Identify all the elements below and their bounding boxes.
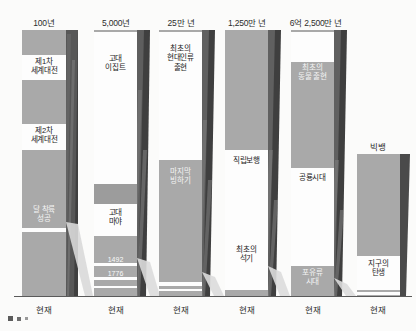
timeline-chart-canvas: [0, 0, 416, 331]
event-band-2-5: [94, 286, 137, 288]
event-label-5-3: 포유류 시대: [291, 268, 334, 287]
event-label-1-2: 제2차 세계대전: [22, 126, 66, 145]
event-label-1-3: 달 착륙 성공: [22, 205, 66, 224]
tick-top-4: 1,250만 년: [217, 16, 277, 28]
event-label-3-1: 최초의 현대인류 출현: [159, 44, 202, 72]
event-label-2-1: 고대 이집트: [94, 54, 137, 73]
footer-square-medium-icon: [17, 317, 21, 321]
event-band-5-0: [291, 32, 334, 62]
tick-top-6: 빅뱅: [352, 140, 404, 152]
event-label-2-4: 1776: [94, 269, 137, 278]
tick-bottom-2: 현재: [90, 303, 142, 315]
footer-square-large-icon: [8, 316, 13, 321]
event-label-2-3: 1492: [94, 255, 137, 264]
event-label-1-1: 제1차 세계대전: [22, 57, 66, 76]
event-band-2-gap: [94, 184, 137, 204]
tick-bottom-3: 현재: [155, 303, 207, 315]
event-label-4-1: 직립보행: [225, 156, 268, 165]
tick-top-3: 25만 년: [155, 16, 207, 28]
event-label-5-1: 최초의 동물 출현: [291, 63, 334, 82]
tick-bottom-5: 현재: [287, 303, 339, 315]
event-band-3-2: [159, 282, 202, 286]
event-band-6-2: [357, 292, 400, 295]
event-band-5-2: [291, 168, 334, 266]
event-label-5-2: 공룡시대: [291, 173, 334, 182]
event-label-2-2: 고대 마야: [94, 208, 137, 227]
footer-square-small-icon: [25, 317, 28, 320]
tick-top-2: 5,000년: [90, 16, 142, 28]
event-label-6-1: 지구의 탄생: [357, 259, 400, 278]
event-band-1-3: [22, 228, 66, 232]
footer-marks: [8, 316, 28, 321]
event-band-3-3: [159, 289, 202, 291]
event-label-3-2: 마지막 빙하기: [159, 167, 202, 186]
tick-bottom-6: 현재: [352, 303, 404, 315]
tick-bottom-1: 현재: [18, 303, 70, 315]
timeline-figure: 100년 5,000년 25만 년 1,250만 년 6억 2,500만 년 빅…: [0, 0, 416, 331]
event-label-4-2: 최초의 석기: [225, 245, 268, 264]
tick-top-5: 6억 2,500만 년: [280, 16, 352, 28]
tick-bottom-4: 현재: [221, 303, 273, 315]
tick-top-1: 100년: [18, 16, 70, 28]
